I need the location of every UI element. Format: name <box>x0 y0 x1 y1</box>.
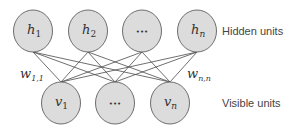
hidden-node-h2: h2 <box>69 10 108 52</box>
edge-h2-v1 <box>61 52 88 82</box>
visible-node-vn: vn <box>151 82 190 124</box>
rbm-diagram: h1h2•••hnv1•••vn w1,1wn,n Hidden units V… <box>0 0 290 128</box>
hidden-node-hn: hn <box>178 10 217 52</box>
edges <box>33 52 197 82</box>
hidden-node-h1: h1 <box>14 10 53 52</box>
visible-node-vdots: ••• <box>96 82 135 124</box>
hidden-node-hdots: ••• <box>123 10 162 52</box>
hidden-units-label: Hidden units <box>222 25 284 37</box>
ellipsis-label: ••• <box>109 100 121 108</box>
ellipsis-label: ••• <box>136 28 148 36</box>
visible-node-v1: v1 <box>42 82 81 124</box>
weight-label-n-n: wn,n <box>187 66 211 83</box>
weight-label-1-1: w1,1 <box>20 66 44 83</box>
visible-units-label: Visible units <box>222 97 281 109</box>
